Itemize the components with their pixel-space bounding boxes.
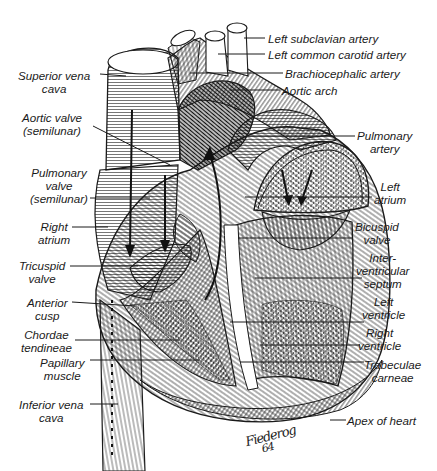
label-aortic-arch: Aortic arch bbox=[282, 84, 337, 97]
label-aortic-valve: Aortic valve (semilunar) bbox=[22, 111, 82, 137]
label-trabeculae-carneae: Trabeculae carneae bbox=[364, 358, 421, 384]
label-brachiocephalic-artery: Brachiocephalic artery bbox=[285, 67, 400, 80]
label-left-ventricle: Left ventricle bbox=[362, 295, 405, 321]
label-papillary-muscle: Papillary muscle bbox=[40, 356, 84, 382]
label-left-subclavian-artery: Left subclavian artery bbox=[268, 32, 378, 45]
heart-anatomy-diagram: Left subclavian artery Left common carot… bbox=[0, 0, 437, 471]
label-inferior-vena-cava: Inferior vena cava bbox=[19, 398, 83, 424]
label-superior-vena-cava: Superior vena cava bbox=[18, 69, 90, 95]
label-apex-of-heart: Apex of heart bbox=[347, 414, 416, 427]
label-right-atrium: Right atrium bbox=[38, 220, 70, 246]
label-left-atrium: Left atrium bbox=[374, 180, 406, 206]
label-interventricular-septum: Inter- ventricular septum bbox=[356, 251, 409, 290]
label-bicuspid-valve: Bicuspid valve bbox=[355, 220, 399, 246]
label-right-ventricle: Right ventricle bbox=[358, 326, 401, 352]
label-pulmonary-valve: Pulmonary valve (semilunar) bbox=[30, 166, 88, 205]
label-tricuspid-valve: Tricuspid valve bbox=[19, 259, 65, 285]
label-pulmonary-artery: Pulmonary artery bbox=[357, 129, 412, 155]
label-chordae-tendineae: Chordae tendineae bbox=[21, 328, 72, 354]
label-left-common-carotid-artery: Left common carotid artery bbox=[268, 48, 406, 61]
label-anterior-cusp: Anterior cusp bbox=[27, 296, 68, 322]
